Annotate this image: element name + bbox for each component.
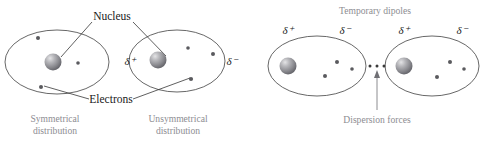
electron-dot bbox=[462, 67, 466, 71]
electron-dot bbox=[39, 85, 43, 89]
temporary-dipoles-label: Temporary dipoles bbox=[339, 5, 411, 16]
symmetrical-caption-line2: distribution bbox=[33, 125, 77, 136]
electron-dot bbox=[335, 60, 339, 64]
nucleus-label: Nucleus bbox=[93, 10, 131, 22]
electron-dot bbox=[36, 36, 40, 40]
delta-positive-dipole-right: δ⁺ bbox=[398, 24, 410, 36]
nucleus-sphere-dipole-left bbox=[280, 58, 297, 75]
dispersion-forces-arrow-head bbox=[374, 70, 380, 78]
dispersion-forces-label: Dispersion forces bbox=[343, 114, 411, 125]
dispersion-force-dot bbox=[376, 65, 379, 68]
delta-negative-dipole-left: δ⁻ bbox=[339, 24, 351, 36]
unsymmetrical-caption-line1: Unsymmetrical bbox=[148, 113, 207, 124]
electron-dot bbox=[211, 52, 215, 56]
electron-dot bbox=[435, 75, 439, 79]
electron-dot bbox=[350, 67, 354, 71]
electron-dot bbox=[189, 77, 193, 81]
delta-negative-dipole-right: δ⁻ bbox=[456, 24, 468, 36]
delta-negative-unsymmetrical: δ⁻ bbox=[226, 55, 238, 67]
nucleus-sphere-unsymmetrical bbox=[150, 52, 167, 69]
dispersion-forces-figure: Nucleus Electrons δ⁺ δ⁻ Symmetrical dist… bbox=[0, 0, 482, 143]
electron-dot bbox=[186, 46, 190, 50]
dispersion-force-dot bbox=[383, 65, 386, 68]
electrons-label: Electrons bbox=[89, 93, 133, 105]
electron-dot bbox=[448, 60, 452, 64]
delta-positive-dipole-left: δ⁺ bbox=[282, 24, 294, 36]
unsymmetrical-caption-line2: distribution bbox=[156, 125, 200, 136]
nucleus-sphere-dipole-right bbox=[396, 58, 413, 75]
dispersion-force-dot bbox=[369, 65, 372, 68]
delta-positive-unsymmetrical: δ⁺ bbox=[124, 55, 136, 67]
electron-dot bbox=[76, 61, 80, 65]
figure-canvas: Nucleus Electrons δ⁺ δ⁻ Symmetrical dist… bbox=[0, 0, 482, 143]
electron-dot bbox=[323, 74, 327, 78]
symmetrical-caption-line1: Symmetrical bbox=[30, 113, 79, 124]
nucleus-sphere-symmetrical bbox=[45, 54, 62, 71]
